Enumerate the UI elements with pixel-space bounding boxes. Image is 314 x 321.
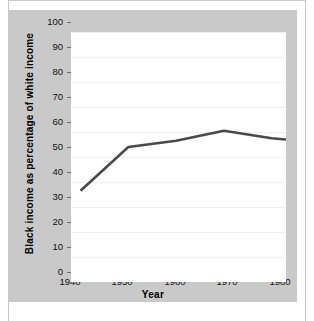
chart-figure: Black income as percentage of white inco…: [0, 0, 314, 321]
figure-border-right: [305, 0, 306, 321]
plot-area: [71, 32, 286, 282]
data-series-line: [71, 32, 286, 282]
figure-border-top: [8, 0, 306, 1]
chart-panel: Black income as percentage of white inco…: [9, 10, 297, 302]
x-axis-title: Year: [9, 289, 297, 300]
